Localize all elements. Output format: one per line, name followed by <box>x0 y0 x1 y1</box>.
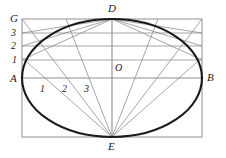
vertical-division-label-2: 2 <box>11 40 16 51</box>
horizontal-division-label-1: 1 <box>40 83 45 94</box>
ray-e-right-1 <box>112 58 202 137</box>
ray-e-left-1 <box>22 58 112 137</box>
ellipse-construction-diagram <box>0 0 226 158</box>
point-label-e: E <box>108 141 115 152</box>
ray-d-right-2 <box>112 19 202 46</box>
ray-d-right-3 <box>112 19 202 60</box>
figure-canvas: G A B D E O 3 2 1 1 2 3 <box>0 0 226 158</box>
point-label-g: G <box>10 13 18 24</box>
vertical-division-label-1: 1 <box>12 54 17 65</box>
ray-d-left-2 <box>22 19 112 46</box>
point-label-a: A <box>10 73 17 84</box>
point-label-b: B <box>207 72 214 83</box>
point-label-o: O <box>115 62 122 73</box>
horizontal-division-label-2: 2 <box>62 83 67 94</box>
point-label-d: D <box>108 3 116 14</box>
ray-d-left-3 <box>22 19 112 60</box>
horizontal-division-label-3: 3 <box>84 83 89 94</box>
vertical-division-label-3: 3 <box>11 27 16 38</box>
